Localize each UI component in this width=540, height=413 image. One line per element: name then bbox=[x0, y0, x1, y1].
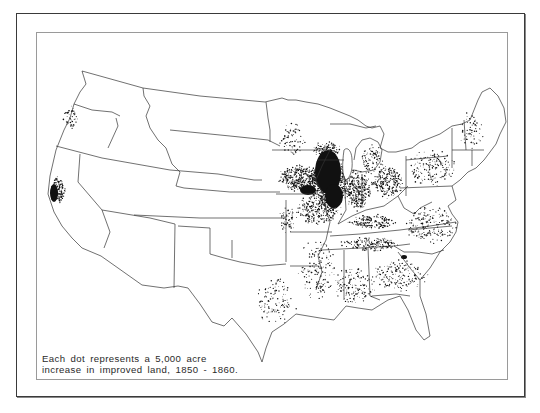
state-borders bbox=[48, 71, 506, 362]
us-map bbox=[0, 0, 540, 413]
lake-michigan bbox=[343, 149, 353, 180]
map-caption: Each dot represents a 5,000 acre increas… bbox=[42, 353, 238, 375]
caption-line-1: Each dot represents a 5,000 acre bbox=[42, 353, 238, 364]
caption-line-2: increase in improved land, 1850 - 1860. bbox=[42, 364, 238, 375]
dot-density-layer bbox=[51, 106, 484, 323]
dense-cluster-layer bbox=[50, 150, 407, 259]
dense-cluster bbox=[50, 184, 58, 202]
dense-cluster bbox=[325, 184, 343, 208]
dense-cluster bbox=[300, 185, 316, 195]
